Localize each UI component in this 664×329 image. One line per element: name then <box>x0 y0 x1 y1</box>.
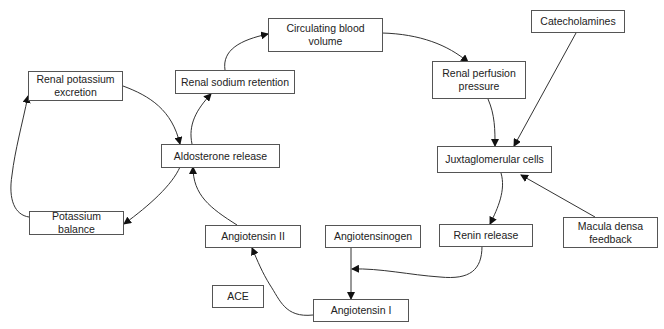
node-label: Aldosterone release <box>174 150 267 163</box>
node-renin-release: Renin release <box>439 224 533 247</box>
node-macula-densa-feedback: Macula densa feedback <box>563 217 658 248</box>
edge-ang2-to-aldosterone <box>193 167 237 225</box>
node-label: Angiotensinogen <box>334 230 412 243</box>
edge-renin-to-conversion <box>352 246 482 278</box>
node-label: Renal perfusion pressure <box>437 67 521 93</box>
node-label: Renal sodium retention <box>181 76 289 89</box>
edge-jg-to-renin <box>490 173 503 224</box>
node-label: Angiotensin II <box>221 230 285 243</box>
node-label: ACE <box>227 290 249 303</box>
node-angiotensinogen: Angiotensinogen <box>325 225 421 248</box>
node-label: Angiotensin I <box>331 304 392 317</box>
node-potassium-balance: Potassium balance <box>29 211 124 235</box>
edge-volume-to-perfusion <box>382 33 468 62</box>
edge-aldosterone-to-sodium <box>191 94 211 144</box>
node-circulating-blood-volume: Circulating blood volume <box>268 18 383 52</box>
node-juxtaglomerular-cells: Juxtaglomerular cells <box>437 146 552 173</box>
node-label: Catecholamines <box>540 15 615 28</box>
node-label: Renin release <box>454 229 519 242</box>
node-label: Macula densa feedback <box>568 220 653 246</box>
edge-perfusion-to-jg <box>488 99 495 146</box>
edge-excretion-to-aldosterone <box>123 86 180 144</box>
node-ace: ACE <box>212 285 264 308</box>
edge-sodium-to-volume <box>225 34 268 70</box>
node-renal-sodium-retention: Renal sodium retention <box>175 70 295 94</box>
node-label: Circulating blood volume <box>273 22 378 48</box>
node-label: Potassium balance <box>34 210 119 236</box>
edge-macula-to-jg <box>521 175 595 217</box>
edge-potassium-to-excretion <box>11 96 29 217</box>
node-aldosterone-release: Aldosterone release <box>161 144 280 168</box>
node-renal-potassium-excretion: Renal potassium excretion <box>28 71 123 101</box>
node-angiotensin-i: Angiotensin I <box>313 299 409 322</box>
node-label: Juxtaglomerular cells <box>445 153 544 166</box>
edge-aldosterone-to-potassium <box>124 167 180 224</box>
node-label: Renal potassium excretion <box>33 73 118 99</box>
node-renal-perfusion-pressure: Renal perfusion pressure <box>432 61 526 99</box>
node-catecholamines: Catecholamines <box>531 10 625 33</box>
node-angiotensin-ii: Angiotensin II <box>205 225 301 248</box>
